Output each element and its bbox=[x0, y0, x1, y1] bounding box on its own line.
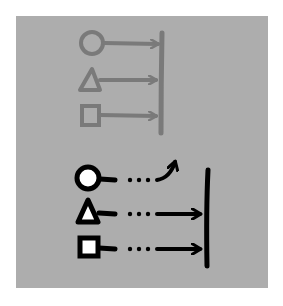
top-square-arrow bbox=[100, 115, 156, 116]
bottom-triangle-dots bbox=[128, 212, 150, 216]
bottom-square-icon bbox=[80, 238, 98, 256]
bottom-circle-dots bbox=[128, 178, 150, 182]
bottom-circle-stub bbox=[100, 179, 115, 180]
top-bar bbox=[161, 33, 162, 133]
top-circle-arrow bbox=[104, 43, 158, 44]
top-group bbox=[80, 32, 162, 133]
bottom-square-stub bbox=[99, 248, 115, 249]
top-circle-icon bbox=[81, 32, 103, 54]
bottom-bar bbox=[207, 170, 208, 266]
bottom-circle-curved-arrow bbox=[157, 162, 175, 180]
bottom-group bbox=[77, 162, 208, 266]
top-square-icon bbox=[82, 106, 99, 125]
bottom-triangle-icon bbox=[78, 200, 98, 222]
diagram-canvas bbox=[0, 0, 283, 306]
bottom-square-dots bbox=[128, 247, 150, 251]
bottom-triangle-stub bbox=[99, 213, 115, 214]
top-triangle-icon bbox=[80, 69, 100, 90]
bottom-circle-icon bbox=[77, 167, 99, 189]
